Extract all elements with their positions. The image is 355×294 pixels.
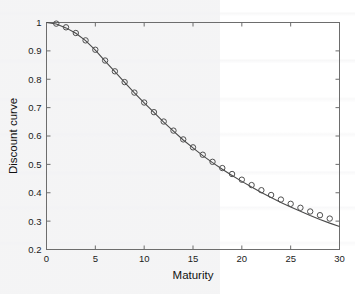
y-tick-label: 0.5 — [28, 159, 41, 170]
data-point-marker — [268, 192, 273, 197]
curve-line — [47, 23, 340, 227]
discount-curve-chart: 0510152025300.20.30.40.50.60.70.80.91Mat… — [0, 0, 355, 294]
x-tick-label: 30 — [334, 253, 345, 264]
x-tick-label: 0 — [44, 253, 49, 264]
x-tick-label: 15 — [188, 253, 199, 264]
data-point-marker — [317, 212, 322, 217]
x-tick-label: 25 — [285, 253, 296, 264]
y-axis-title: Discount curve — [7, 98, 19, 174]
data-point-marker — [298, 205, 303, 210]
y-tick-label: 0.6 — [28, 130, 41, 141]
y-tick-label: 0.7 — [28, 102, 41, 113]
y-tick-label: 0.4 — [28, 187, 41, 198]
data-point-marker — [308, 209, 313, 214]
x-axis-title: Maturity — [173, 269, 214, 281]
y-tick-label: 0.3 — [28, 216, 41, 227]
x-tick-label: 5 — [93, 253, 98, 264]
y-tick-label: 0.9 — [28, 45, 41, 56]
x-tick-label: 20 — [237, 253, 248, 264]
y-tick-label: 1 — [36, 17, 41, 28]
data-point-marker — [327, 216, 332, 221]
axis-box — [47, 23, 340, 250]
x-tick-label: 10 — [139, 253, 150, 264]
data-point-marker — [288, 201, 293, 206]
figure-canvas: 0510152025300.20.30.40.50.60.70.80.91Mat… — [0, 0, 355, 294]
y-tick-label: 0.8 — [28, 74, 41, 85]
data-point-marker — [278, 197, 283, 202]
y-tick-label: 0.2 — [28, 244, 41, 255]
